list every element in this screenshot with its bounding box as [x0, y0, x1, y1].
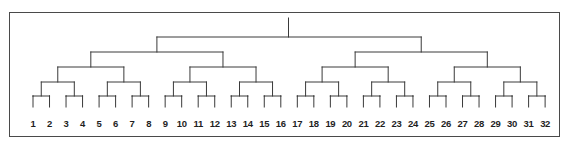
leaf-label-5: 5 [97, 118, 102, 129]
leaf-label-7: 7 [130, 118, 135, 129]
leaf-label-15: 15 [259, 118, 269, 129]
leaf-label-24: 24 [408, 118, 418, 129]
leaf-label-3: 3 [64, 118, 69, 129]
leaf-label-19: 19 [325, 118, 335, 129]
leaf-label-28: 28 [474, 118, 484, 129]
leaf-label-11: 11 [193, 118, 202, 129]
leaf-label-31: 31 [524, 118, 534, 129]
leaf-label-23: 23 [391, 118, 401, 129]
leaf-label-14: 14 [243, 118, 253, 129]
leaf-label-6: 6 [113, 118, 118, 129]
leaf-label-8: 8 [146, 118, 151, 129]
leaf-label-25: 25 [424, 118, 434, 129]
leaf-label-12: 12 [210, 118, 220, 129]
leaf-label-26: 26 [441, 118, 451, 129]
leaf-label-16: 16 [276, 118, 286, 129]
leaf-label-27: 27 [458, 118, 468, 129]
leaf-label-20: 20 [342, 118, 352, 129]
leaf-label-2: 2 [47, 118, 52, 129]
leaf-label-22: 22 [375, 118, 385, 129]
leaf-label-18: 18 [309, 118, 319, 129]
leaf-label-32: 32 [540, 118, 550, 129]
leaf-label-4: 4 [80, 118, 85, 129]
figure-canvas: 1234567891011121314151617181920212223242… [0, 0, 570, 149]
leaf-label-row: 1234567891011121314151617181920212223242… [0, 0, 570, 149]
leaf-label-9: 9 [163, 118, 168, 129]
leaf-label-29: 29 [491, 118, 501, 129]
leaf-label-10: 10 [177, 118, 187, 129]
leaf-label-17: 17 [292, 118, 302, 129]
leaf-label-21: 21 [358, 118, 368, 129]
leaf-label-13: 13 [226, 118, 236, 129]
leaf-label-1: 1 [31, 118, 36, 129]
leaf-label-30: 30 [507, 118, 517, 129]
